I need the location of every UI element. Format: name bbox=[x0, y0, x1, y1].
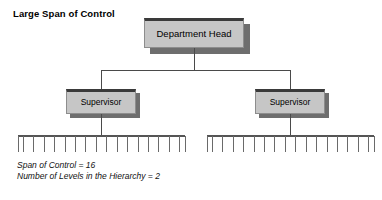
caption-levels: Number of Levels in the Hierarchy = 2 bbox=[17, 171, 160, 181]
supervisor-left-label: Supervisor bbox=[81, 98, 122, 107]
node-supervisor-left[interactable]: Supervisor bbox=[66, 89, 136, 114]
comb-teeth-right bbox=[207, 136, 374, 152]
page-title: Large Span of Control bbox=[13, 8, 115, 19]
diagram-canvas: Large Span of Control Department Head Su… bbox=[0, 0, 382, 200]
node-department-head[interactable]: Department Head bbox=[144, 18, 244, 48]
caption-span-of-control: Span of Control = 16 bbox=[17, 160, 95, 170]
comb-teeth-left bbox=[18, 136, 185, 152]
supervisor-right-label: Supervisor bbox=[270, 98, 311, 107]
node-supervisor-right[interactable]: Supervisor bbox=[255, 89, 325, 114]
department-head-label: Department Head bbox=[157, 29, 232, 39]
